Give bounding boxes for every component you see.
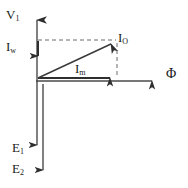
- phasor-vector-canvas: [0, 0, 188, 188]
- label-phi: Φ: [166, 67, 176, 81]
- label-v1: V1: [6, 8, 19, 21]
- label-e2: E2: [12, 162, 24, 175]
- phasor-diagram: V1 Iw IO Im Φ E1 E2: [0, 0, 188, 188]
- label-io: IO: [118, 31, 128, 44]
- label-im: Im: [75, 62, 86, 75]
- label-e1: E1: [12, 141, 24, 154]
- label-iw: Iw: [6, 40, 16, 53]
